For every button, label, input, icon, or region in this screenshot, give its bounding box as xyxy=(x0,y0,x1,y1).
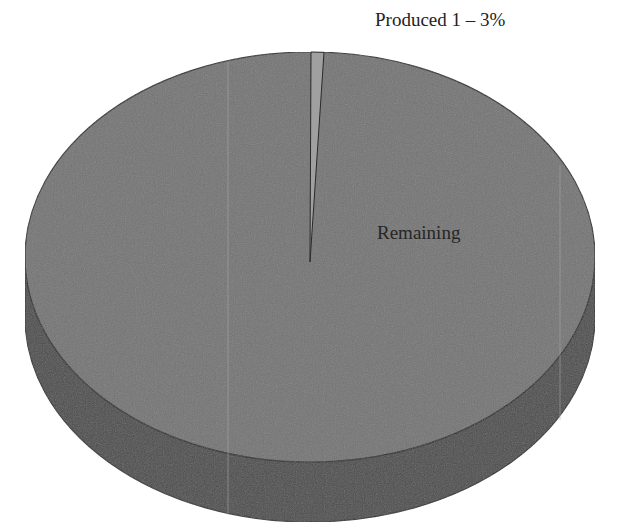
label-produced: Produced 1 – 3% xyxy=(375,9,505,31)
label-remaining: Remaining xyxy=(377,222,460,244)
pie-chart-3d xyxy=(0,0,620,531)
